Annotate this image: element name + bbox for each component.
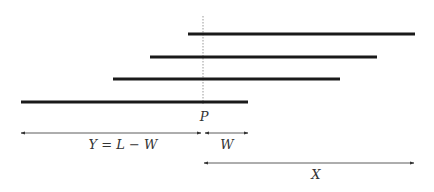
y-equals-l-minus-w-label: Y = L − W (89, 137, 160, 152)
point-p-label: P (199, 109, 209, 124)
x-label: X (310, 167, 321, 182)
w-label: W (220, 137, 235, 152)
waiting-time-diagram: P Y = L − W W X (0, 0, 434, 192)
interval-segments (21, 34, 415, 102)
dimension-arrows (21, 133, 414, 163)
